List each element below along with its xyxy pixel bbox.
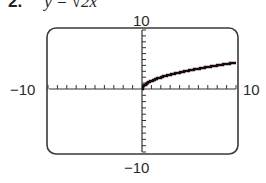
axes [48,30,236,152]
graph-plot [0,0,266,183]
